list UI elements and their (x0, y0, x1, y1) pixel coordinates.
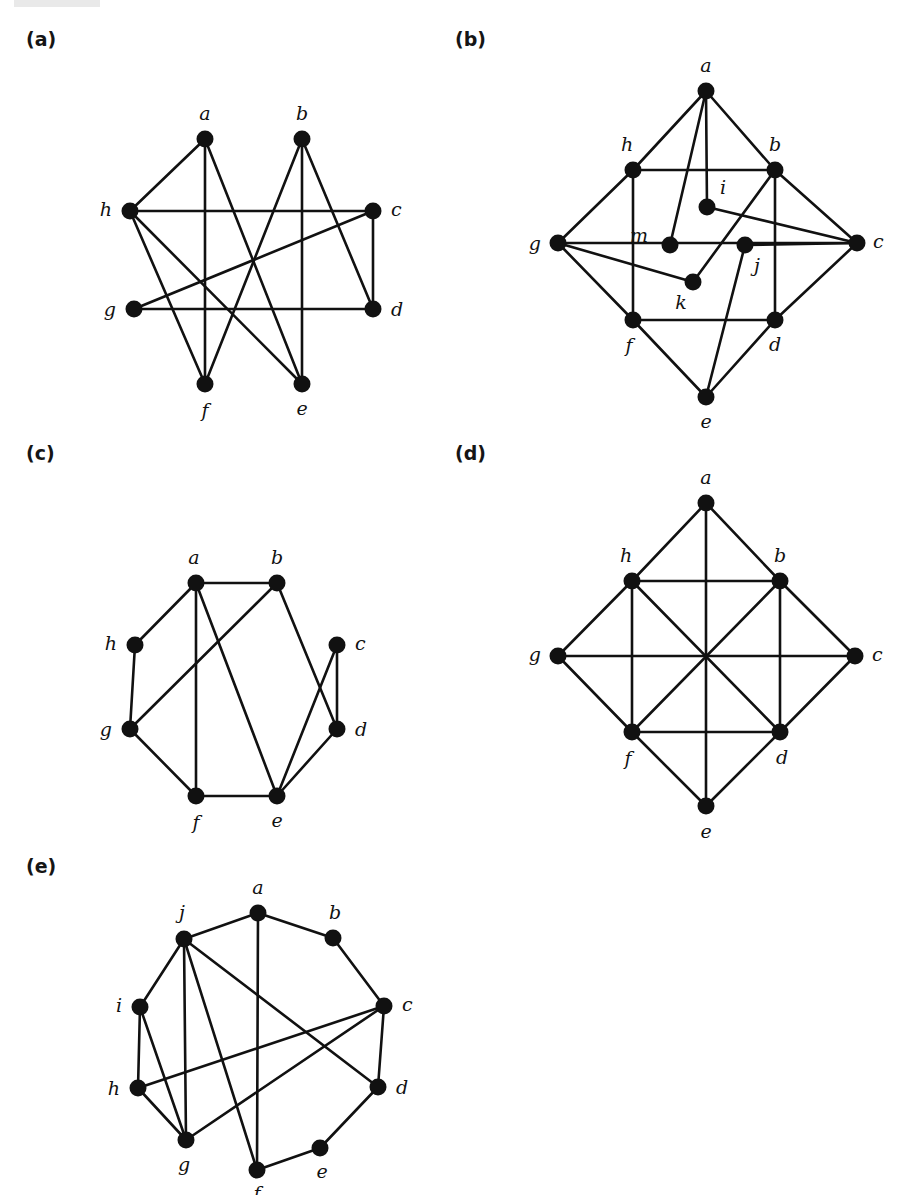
vertex-e-h (130, 1080, 147, 1097)
vertex-label-e-j: j (175, 901, 185, 923)
edge-b-hg (558, 170, 633, 243)
edge-a-ae (205, 139, 302, 384)
vertex-d-f (624, 724, 641, 741)
vertex-layer: abcdefghij (108, 876, 413, 1195)
vertex-label-e-c: c (402, 993, 413, 1015)
edge-e-bc (333, 938, 384, 1006)
vertex-label-e-b: b (329, 901, 341, 923)
edge-a-gc (134, 211, 373, 309)
vertex-label-d-a: a (700, 466, 711, 488)
vertex-d-g (550, 648, 567, 665)
vertex-label-b-m: m (630, 224, 648, 246)
vertex-label-b-g: g (529, 232, 541, 254)
vertex-label-c-b: b (271, 546, 283, 568)
vertex-label-e-f: f (251, 1182, 263, 1195)
vertex-d-b (772, 573, 789, 590)
vertex-label-c-f: f (190, 811, 202, 833)
edge-c-hg (130, 645, 135, 729)
edge-b-gk (558, 243, 693, 282)
vertex-label-d-f: f (622, 747, 634, 769)
edge-e-gj (184, 939, 186, 1140)
edge-e-dj (184, 939, 378, 1087)
vertex-label-d-b: b (774, 544, 786, 566)
vertex-label-d-g: g (529, 643, 541, 665)
vertex-c-a (188, 575, 205, 592)
edge-layer (558, 91, 857, 397)
edge-c-ah (135, 583, 196, 645)
edge-b-cj (745, 243, 857, 245)
vertex-layer: abcdefghijkm (529, 54, 884, 432)
vertex-a-d (365, 301, 382, 318)
edge-e-cd (378, 1006, 384, 1087)
panel-label-d: (d) (455, 442, 486, 464)
panel-label-e: (e) (26, 855, 56, 877)
edge-b-fe (633, 320, 706, 397)
edge-a-ah (130, 139, 205, 211)
edge-e-gi (140, 1007, 186, 1140)
vertex-e-f (249, 1162, 266, 1179)
edge-e-ch (138, 1006, 384, 1088)
vertex-e-a (250, 905, 267, 922)
vertex-c-f (188, 788, 205, 805)
graph-panel-a: abcdefgh (0, 0, 899, 1195)
panel-label-a: (a) (26, 28, 56, 50)
vertex-label-c-d: d (355, 718, 367, 740)
edge-d-ab (706, 503, 780, 581)
vertex-label-e-h: h (108, 1077, 120, 1099)
vertex-label-c-e: e (271, 809, 282, 831)
edge-d-bc (780, 581, 855, 656)
vertex-label-e-i: i (116, 994, 122, 1016)
vertex-label-b-h: h (621, 133, 633, 155)
vertex-label-b-i: i (720, 176, 726, 198)
edge-layer (558, 503, 855, 806)
vertex-label-b-f: f (623, 334, 635, 356)
vertex-label-c-h: h (105, 632, 117, 654)
edge-e-af (257, 913, 258, 1170)
edge-b-gf (558, 243, 633, 320)
edge-c-gf (130, 729, 196, 796)
edge-c-ae (196, 583, 277, 796)
edge-d-hg (558, 581, 632, 656)
vertex-b-h (625, 162, 642, 179)
vertex-b-a (698, 83, 715, 100)
edge-e-aj (184, 913, 258, 939)
vertex-d-e (698, 798, 715, 815)
edge-a-bf (205, 139, 302, 384)
vertex-label-a-b: b (296, 102, 308, 124)
edge-d-hd (632, 581, 780, 732)
vertex-c-d (329, 721, 346, 738)
vertex-b-f (625, 312, 642, 329)
edge-b-ej (706, 245, 745, 397)
vertex-b-b (767, 162, 784, 179)
vertex-label-d-d: d (776, 746, 788, 768)
vertex-c-g (122, 721, 139, 738)
edge-e-ef (257, 1148, 320, 1170)
vertex-label-b-d: d (769, 333, 781, 355)
edge-c-bd (277, 583, 337, 729)
vertex-a-f (197, 376, 214, 393)
edge-b-bc (775, 170, 857, 243)
edge-e-cg (186, 1006, 384, 1140)
vertex-d-c (847, 648, 864, 665)
edge-e-gh (138, 1088, 186, 1140)
vertex-layer: abcdefgh (100, 546, 367, 833)
vertex-label-d-e: e (700, 820, 711, 842)
edge-e-ij (140, 939, 184, 1007)
vertex-label-c-g: g (100, 718, 112, 740)
vertex-label-a-d: d (391, 298, 403, 320)
edge-b-de (706, 320, 775, 397)
edge-c-bg (130, 583, 277, 729)
vertex-b-k (685, 274, 702, 291)
edge-e-ab (258, 913, 333, 938)
vertex-c-h (127, 637, 144, 654)
edge-layer (130, 139, 373, 384)
vertex-label-c-a: a (188, 546, 199, 568)
edge-b-am (670, 91, 706, 245)
panel-label-c: (c) (26, 442, 55, 464)
vertex-label-a-a: a (199, 102, 210, 124)
edge-d-gf (558, 656, 632, 732)
vertex-label-e-g: g (178, 1153, 190, 1175)
vertex-label-b-c: c (873, 230, 884, 252)
graph-panel-c: abcdefgh (0, 0, 899, 1195)
vertex-b-g (550, 235, 567, 252)
